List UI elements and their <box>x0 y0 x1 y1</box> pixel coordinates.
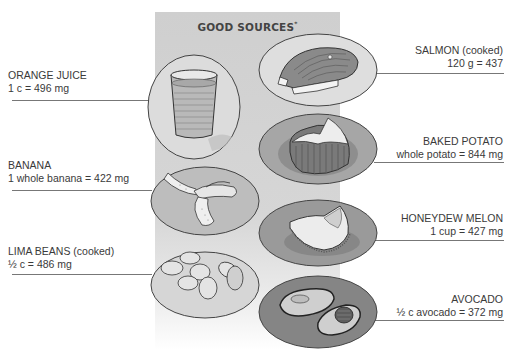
plate-honeydew-melon <box>258 198 378 268</box>
label-avocado: AVOCADO ½ c avocado = 372 mg <box>396 293 503 319</box>
leader-line <box>374 320 504 321</box>
food-name: SALMON (cooked) <box>415 44 503 57</box>
leader-line <box>372 73 504 74</box>
plate-lima-beans <box>150 250 260 320</box>
peeled-banana-icon <box>150 165 260 237</box>
plate-orange-juice <box>146 53 242 161</box>
leader-line <box>374 240 504 241</box>
leader-line <box>12 100 150 101</box>
food-name: BAKED POTATO <box>396 135 503 148</box>
avocado-halves-icon <box>258 275 378 350</box>
food-name: HONEYDEW MELON <box>401 212 503 225</box>
plate-salmon <box>258 32 378 108</box>
food-name: LIMA BEANS (cooked) <box>8 245 114 258</box>
label-banana: BANANA 1 whole banana = 422 mg <box>8 159 129 185</box>
food-amount: 1 cup = 427 mg <box>401 225 503 238</box>
footnote-marker: * <box>294 20 297 27</box>
leader-line <box>12 190 152 191</box>
food-name: ORANGE JUICE <box>8 69 87 82</box>
glass-of-juice-icon <box>146 53 242 161</box>
salmon-steak-icon <box>258 32 378 108</box>
food-name: BANANA <box>8 159 129 172</box>
lima-beans-icon <box>150 250 260 320</box>
label-honeydew-melon: HONEYDEW MELON 1 cup = 427 mg <box>401 212 503 238</box>
plate-avocado <box>258 275 378 350</box>
food-amount: ½ c = 486 mg <box>8 258 114 271</box>
baked-potato-icon <box>258 112 378 186</box>
food-amount: 120 g = 437 <box>415 57 503 70</box>
food-name: AVOCADO <box>396 293 503 306</box>
label-salmon: SALMON (cooked) 120 g = 437 <box>415 44 503 70</box>
food-amount: 1 whole banana = 422 mg <box>8 172 129 185</box>
plate-baked-potato <box>258 112 378 186</box>
leader-line <box>374 162 504 163</box>
plate-banana <box>150 165 260 237</box>
label-baked-potato: BAKED POTATO whole potato = 844 mg <box>396 135 503 161</box>
label-lima-beans: LIMA BEANS (cooked) ½ c = 486 mg <box>8 245 114 271</box>
food-amount: whole potato = 844 mg <box>396 148 503 161</box>
food-amount: ½ c avocado = 372 mg <box>396 306 503 319</box>
melon-slice-icon <box>258 198 378 268</box>
food-amount: 1 c = 496 mg <box>8 82 87 95</box>
label-orange-juice: ORANGE JUICE 1 c = 496 mg <box>8 69 87 95</box>
leader-line <box>12 274 152 275</box>
